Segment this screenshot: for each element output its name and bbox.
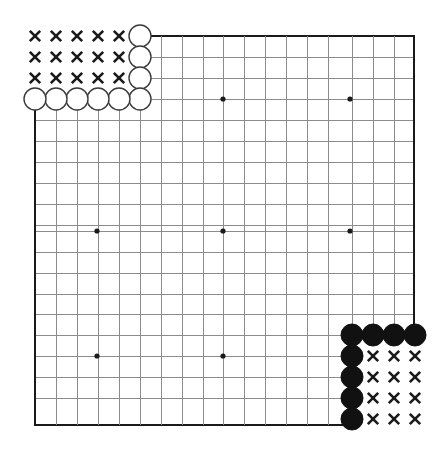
stones-layer[interactable] xyxy=(24,25,426,430)
white-territory-top-left-mark-5 xyxy=(30,52,40,62)
white-territory-top-left-mark-14 xyxy=(114,73,124,83)
white-territory-top-left-mark-11 xyxy=(51,73,61,83)
white-stone-wall-lower[interactable] xyxy=(129,67,151,89)
black-territory-bottom-right-mark-8 xyxy=(410,393,420,403)
white-territory-top-left-mark-4 xyxy=(114,31,124,41)
white-stone-row-b[interactable] xyxy=(66,88,88,110)
white-stone-wall-upper[interactable] xyxy=(129,46,151,68)
white-stone-row-corner[interactable] xyxy=(24,88,46,110)
white-stone-wall-top[interactable] xyxy=(129,25,151,47)
black-stone-col-4[interactable] xyxy=(341,408,363,430)
black-stone-wall-mid-left[interactable] xyxy=(362,324,384,346)
black-territory-bottom-right-mark-6 xyxy=(368,393,378,403)
white-stone-row-a[interactable] xyxy=(45,88,67,110)
black-stone-wall-right[interactable] xyxy=(404,324,426,346)
black-territory-bottom-right-mark-5 xyxy=(410,372,420,382)
black-territory-bottom-right-mark-9 xyxy=(368,414,378,424)
white-territory-top-left-mark-1 xyxy=(51,31,61,41)
black-stone-col-2[interactable] xyxy=(341,366,363,388)
territory-marks-layer xyxy=(30,31,420,424)
white-territory-top-left-mark-0 xyxy=(30,31,40,41)
white-territory-top-left-mark-13 xyxy=(93,73,103,83)
star-point-middle-left xyxy=(94,228,99,233)
black-stone-wall-left[interactable] xyxy=(341,324,363,346)
white-stone-row-e[interactable] xyxy=(129,88,151,110)
black-territory-bottom-right-mark-3 xyxy=(368,372,378,382)
star-point-top-right xyxy=(347,96,352,101)
black-territory-bottom-right-mark-4 xyxy=(389,372,399,382)
white-stone-row-d[interactable] xyxy=(108,88,130,110)
star-point-middle-right xyxy=(347,228,352,233)
white-territory-top-left-mark-9 xyxy=(114,52,124,62)
black-territory-bottom-right-mark-7 xyxy=(389,393,399,403)
black-stone-col-3[interactable] xyxy=(341,387,363,409)
star-point-bottom-left xyxy=(94,353,99,358)
white-territory-top-left-mark-10 xyxy=(30,73,40,83)
black-territory-bottom-right-mark-11 xyxy=(410,414,420,424)
black-territory-bottom-right-mark-0 xyxy=(368,351,378,361)
white-territory-top-left-mark-8 xyxy=(93,52,103,62)
goban-canvas[interactable] xyxy=(0,0,447,459)
star-point-top-center xyxy=(220,96,225,101)
white-stone-row-c[interactable] xyxy=(87,88,109,110)
black-territory-bottom-right-mark-2 xyxy=(410,351,420,361)
go-board-figure xyxy=(0,0,447,459)
white-territory-top-left-mark-7 xyxy=(72,52,82,62)
star-point-tengen xyxy=(220,228,225,233)
white-territory-top-left-mark-12 xyxy=(72,73,82,83)
black-territory-bottom-right-mark-10 xyxy=(389,414,399,424)
star-point-bottom-center xyxy=(220,353,225,358)
black-stone-col-1[interactable] xyxy=(341,345,363,367)
white-territory-top-left-mark-6 xyxy=(51,52,61,62)
black-stone-wall-mid-right[interactable] xyxy=(383,324,405,346)
white-territory-top-left-mark-3 xyxy=(93,31,103,41)
white-territory-top-left-mark-2 xyxy=(72,31,82,41)
black-territory-bottom-right-mark-1 xyxy=(389,351,399,361)
